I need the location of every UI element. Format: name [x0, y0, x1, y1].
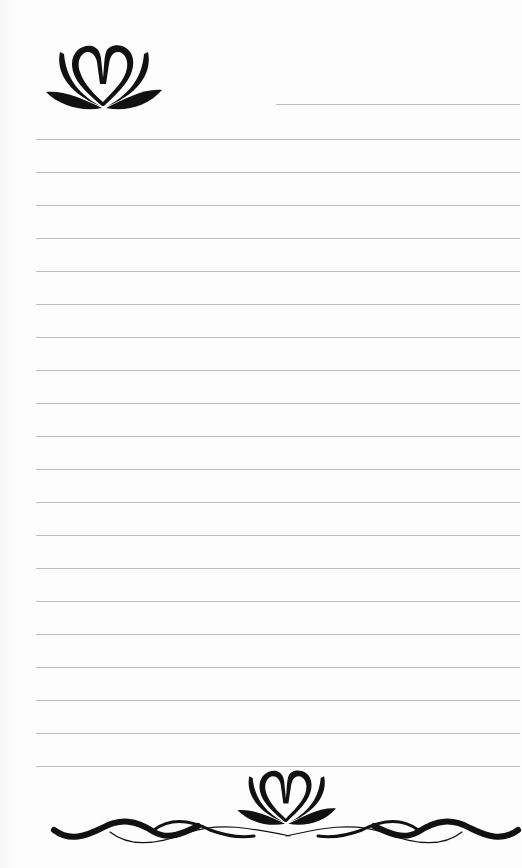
writing-line — [36, 700, 520, 701]
writing-line — [36, 568, 520, 569]
lotus-heart-wave-border-icon — [50, 766, 522, 856]
writing-line — [36, 469, 520, 470]
writing-line — [36, 634, 520, 635]
writing-line — [36, 436, 520, 437]
writing-line — [36, 502, 520, 503]
lotus-heart-icon — [42, 40, 166, 112]
stationery-page — [0, 0, 522, 868]
writing-line — [36, 370, 520, 371]
writing-line — [36, 403, 520, 404]
writing-line — [36, 271, 520, 272]
writing-line — [36, 205, 520, 206]
writing-line — [36, 667, 520, 668]
writing-line — [36, 535, 520, 536]
writing-line — [36, 733, 520, 734]
writing-line — [36, 601, 520, 602]
writing-line — [36, 238, 520, 239]
writing-line — [36, 304, 520, 305]
writing-line — [36, 172, 520, 173]
writing-line — [36, 139, 520, 140]
name-line — [276, 104, 520, 105]
writing-line — [36, 337, 520, 338]
